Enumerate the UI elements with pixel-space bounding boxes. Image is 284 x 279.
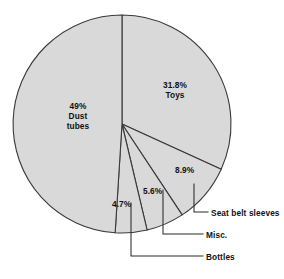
- callout-label-seat-belt-sleeves: Seat belt sleeves: [211, 208, 280, 218]
- pie-chart-canvas: [0, 0, 284, 279]
- callout-label-bottles: Bottles: [206, 252, 235, 262]
- slice-label-bottles-percent: 4.7%: [112, 199, 131, 209]
- slice-label-toys-percent: 31.8%: [139, 80, 211, 90]
- slice-label-seat-belt-sleeves-percent: 8.9%: [175, 165, 194, 175]
- slice-label-dust-tubes: 49% Dust tubes: [42, 101, 114, 131]
- slice-label-misc-percent: 5.6%: [143, 186, 162, 196]
- slice-label-dust-tubes-percent: 49%: [42, 101, 114, 111]
- slice-label-toys-name: Toys: [139, 90, 211, 100]
- slice-label-dust-tubes-name-2: tubes: [42, 121, 114, 131]
- callout-label-misc: Misc.: [206, 230, 227, 240]
- slice-label-dust-tubes-name-1: Dust: [42, 111, 114, 121]
- slice-label-toys: 31.8% Toys: [139, 80, 211, 100]
- pie-chart: 31.8% Toys 49% Dust tubes 8.9% 5.6% 4.7%…: [0, 0, 284, 279]
